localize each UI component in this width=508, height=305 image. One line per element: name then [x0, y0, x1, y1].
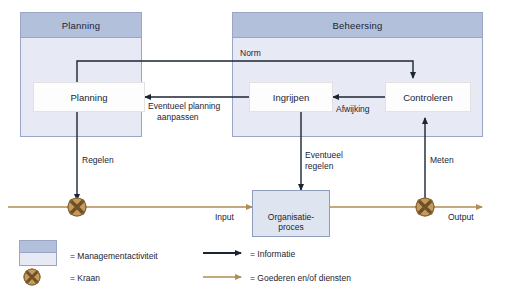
activity-box-controleren[interactable]: Controleren [385, 82, 471, 112]
legend-valve-icon [24, 269, 40, 285]
activity-box-planning[interactable]: Planning [33, 82, 145, 112]
label-input: Input [215, 212, 234, 223]
label-eventueel-planning-aanpassen-line1: Eventueel planning [148, 101, 220, 112]
label-regelen: Regelen [82, 155, 114, 166]
legend-label-goederen: = Goederen en/of diensten [250, 273, 351, 283]
valve-icon-input [68, 198, 86, 216]
activity-box-ingrijpen[interactable]: Ingrijpen [249, 82, 333, 112]
activity-label-planning: Planning [71, 92, 108, 103]
label-eventueel-planning-aanpassen-line2: aanpassen [157, 112, 199, 123]
connector-norm [77, 61, 413, 82]
legend-label-kraan: = Kraan [70, 273, 100, 283]
activity-label-ingrijpen: Ingrijpen [273, 92, 309, 103]
organisatieproces-label-line2: proces [278, 222, 304, 232]
organisatieproces-label-line1: Organisatie- [268, 212, 314, 222]
label-afwijking: Afwijking [336, 104, 370, 115]
diagram-canvas: Planning Beheersing [0, 0, 508, 305]
label-output: Output [448, 212, 474, 223]
organisatieproces-box[interactable]: Organisatie- proces [252, 190, 330, 237]
label-norm: Norm [240, 48, 261, 59]
legend-label-informatie: = Informatie [250, 249, 295, 259]
label-meten: Meten [430, 155, 454, 166]
legend-swatch-header [20, 241, 56, 253]
activity-label-controleren: Controleren [403, 92, 453, 103]
valve-icon-output [416, 198, 434, 216]
label-eventueel-regelen-line2: regelen [305, 161, 333, 172]
legend-panel-swatch-icon [19, 240, 57, 266]
legend-label-managementactiviteit: = Managementactiviteit [70, 251, 158, 261]
label-eventueel-regelen-line1: Eventueel [305, 150, 343, 161]
